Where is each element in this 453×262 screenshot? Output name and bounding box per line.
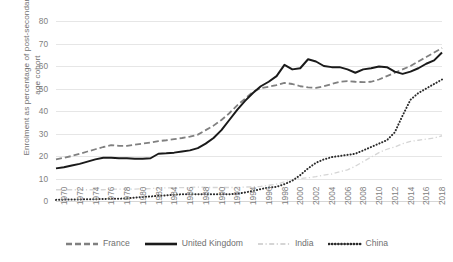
y-tick-label: 50 xyxy=(26,84,48,94)
legend-label: United Kingdom xyxy=(182,238,243,248)
y-tick-label: 0 xyxy=(26,196,48,206)
legend-item-united-kingdom[interactable]: United Kingdom xyxy=(144,238,243,248)
x-tick-label: 1996 xyxy=(264,187,274,205)
legend-label: France xyxy=(103,238,130,248)
x-tick-label: 1982 xyxy=(154,187,164,205)
x-tick-label: 1992 xyxy=(232,187,242,205)
x-tick-label: 1988 xyxy=(201,187,211,205)
series-line-india xyxy=(56,136,442,190)
x-tick-label: 2010 xyxy=(374,187,384,205)
x-tick-label: 1990 xyxy=(217,187,227,205)
y-tick-label: 40 xyxy=(26,106,48,116)
x-tick-label: 2002 xyxy=(311,187,321,205)
legend-item-india[interactable]: India xyxy=(257,238,314,248)
y-tick-label: 20 xyxy=(26,151,48,161)
legend-swatch-icon xyxy=(144,239,178,248)
x-tick-label: 1974 xyxy=(91,187,101,205)
x-tick-label: 2012 xyxy=(390,187,400,205)
plot-area xyxy=(56,21,442,201)
legend-label: China xyxy=(366,238,388,248)
series-line-united-kingdom xyxy=(56,53,442,169)
x-tick-label: 1970 xyxy=(59,187,69,205)
x-tick-label: 1986 xyxy=(185,187,195,205)
x-tick-label: 1980 xyxy=(138,187,148,205)
legend-item-china[interactable]: China xyxy=(328,238,388,248)
chart-legend: FranceUnited KingdomIndiaChina xyxy=(0,238,453,248)
y-tick-label: 70 xyxy=(26,39,48,49)
x-tick-label: 2008 xyxy=(358,187,368,205)
x-tick-label: 2016 xyxy=(421,187,431,205)
legend-swatch-icon xyxy=(257,239,291,248)
x-tick-label: 2004 xyxy=(327,187,337,205)
series-lines xyxy=(56,21,442,201)
y-tick-label: 80 xyxy=(26,16,48,26)
x-tick-label: 1998 xyxy=(280,187,290,205)
x-tick-label: 2018 xyxy=(437,187,447,205)
x-tick-label: 1994 xyxy=(248,187,258,205)
y-tick-label: 60 xyxy=(26,61,48,71)
legend-item-france[interactable]: France xyxy=(65,238,130,248)
x-tick-label: 1978 xyxy=(122,187,132,205)
x-tick-label: 2014 xyxy=(406,187,416,205)
legend-label: India xyxy=(295,238,314,248)
legend-swatch-icon xyxy=(65,239,99,248)
x-tick-label: 1984 xyxy=(169,187,179,205)
x-tick-label: 1976 xyxy=(106,187,116,205)
series-line-france xyxy=(56,48,442,159)
y-tick-label: 30 xyxy=(26,129,48,139)
x-tick-label: 2006 xyxy=(343,187,353,205)
x-tick-label: 1972 xyxy=(75,187,85,205)
legend-swatch-icon xyxy=(328,239,362,248)
x-tick-label: 2000 xyxy=(295,187,305,205)
y-tick-label: 10 xyxy=(26,174,48,184)
chart-container: Enrolment as percentage of post-secondar… xyxy=(0,0,453,262)
